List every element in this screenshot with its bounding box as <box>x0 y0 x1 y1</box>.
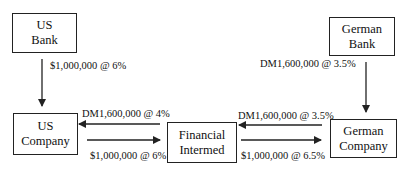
node-german-company-line1: German <box>343 124 383 139</box>
node-fi-line2: Intermed <box>179 143 224 158</box>
label-fi-to-uscompany: DM1,600,000 @ 4% <box>82 108 170 120</box>
node-us-bank: US Bank <box>12 13 77 53</box>
node-us-company: US Company <box>13 113 78 155</box>
label-germanbank-to-germancompany: DM1,600,000 @ 3.5% <box>260 58 356 70</box>
node-us-company-line2: Company <box>21 134 70 149</box>
node-financial-intermediary: Financial Intermed <box>167 122 237 163</box>
label-fi-to-germancompany: $1,000,000 @ 6.5% <box>241 150 325 162</box>
node-us-bank-line1: US <box>37 18 53 33</box>
node-german-company: German Company <box>330 119 397 158</box>
node-german-bank: German Bank <box>329 17 395 56</box>
node-german-bank-line2: Bank <box>349 37 375 52</box>
label-uscompany-to-fi: $1,000,000 @ 6% <box>90 150 166 162</box>
label-germancompany-to-fi: DM1,600,000 @ 3.5% <box>238 110 334 122</box>
node-german-company-line2: Company <box>339 139 388 154</box>
node-fi-line1: Financial <box>179 128 226 143</box>
node-german-bank-line1: German <box>342 22 382 37</box>
node-us-bank-line2: Bank <box>31 33 57 48</box>
label-usbank-to-uscompany: $1,000,000 @ 6% <box>50 60 126 72</box>
node-us-company-line1: US <box>38 119 54 134</box>
